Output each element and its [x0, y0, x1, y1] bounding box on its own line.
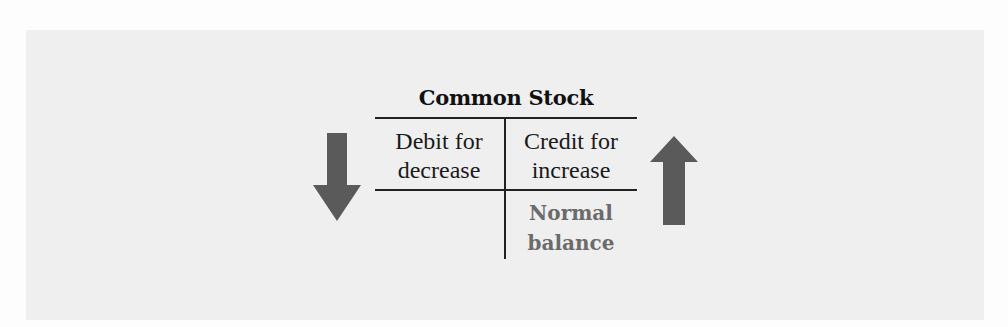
- t-account-center-rule: [504, 117, 506, 259]
- normal-balance-label: Normal balance: [507, 198, 635, 258]
- t-account-diagram: Common Stock Debit for decrease Credit f…: [0, 0, 1008, 327]
- normal-balance-line2: balance: [507, 228, 635, 258]
- account-title: Common Stock: [375, 85, 637, 110]
- credit-label-line2: increase: [507, 156, 635, 185]
- arrow-down-icon: [312, 133, 362, 223]
- t-account-middle-rule: [375, 189, 637, 191]
- debit-label-line1: Debit for: [375, 127, 503, 156]
- normal-balance-line1: Normal: [507, 198, 635, 228]
- arrow-up-icon: [649, 136, 699, 226]
- t-account-top-rule: [375, 117, 637, 119]
- credit-label-line1: Credit for: [507, 127, 635, 156]
- debit-side-label: Debit for decrease: [375, 127, 503, 185]
- debit-label-line2: decrease: [375, 156, 503, 185]
- page: Common Stock Debit for decrease Credit f…: [0, 0, 1008, 327]
- credit-side-label: Credit for increase: [507, 127, 635, 185]
